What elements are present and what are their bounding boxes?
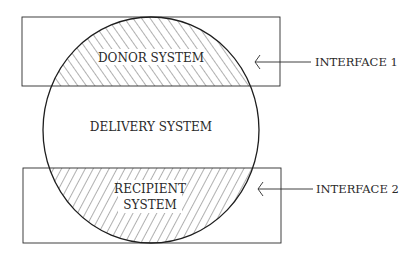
interface-1-label: INTERFACE 1 — [315, 55, 398, 69]
donor-system-label: DONOR SYSTEM — [98, 51, 204, 65]
recipient-system-label-line2: SYSTEM — [123, 198, 176, 212]
delivery-system-label: DELIVERY SYSTEM — [90, 120, 212, 134]
interface-2-label: INTERFACE 2 — [316, 182, 399, 196]
interface-2-callout: INTERFACE 2 — [258, 182, 399, 196]
interface-diagram: DONOR SYSTEM DELIVERY SYSTEM RECIPIENT S… — [0, 0, 418, 256]
interface-1-callout: INTERFACE 1 — [255, 55, 398, 69]
recipient-system-label-line1: RECIPIENT — [114, 182, 186, 196]
